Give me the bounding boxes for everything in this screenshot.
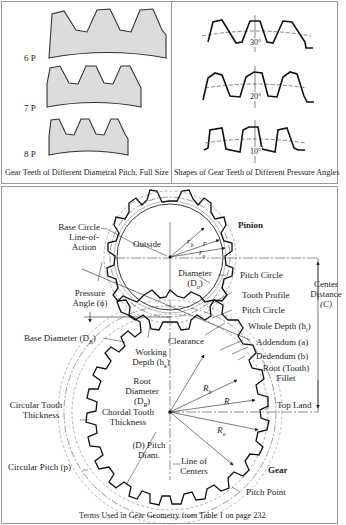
pitch-point-label: Pitch Point [246, 487, 286, 497]
whole-depth-label: Whole Depth (ht) [248, 321, 311, 335]
pressure-angle-20-label: 20° [249, 92, 262, 101]
pitch-label-7p: 7 P [24, 103, 36, 113]
pressure-angle-label: Pressure Angle (ϕ) [68, 288, 112, 308]
pinion-title: Pinion [238, 220, 263, 230]
pitch-label-8p: 8 P [24, 149, 36, 159]
dedendum-label: Dedendum (b) [256, 351, 308, 361]
chordal-tooth-thickness-label: Chordal Tooth Thickness [100, 407, 156, 427]
radius-rb-label: rb [187, 236, 194, 250]
gear-geometry-caption: Terms Used in Gear Geometry from Table 1… [79, 511, 266, 520]
circular-pitch-label: Circular Pitch (p) [8, 462, 71, 472]
pitch-circle-label-2: Pitch Circle [242, 305, 285, 315]
circular-tooth-thickness-label: Circular Tooth Thickness [8, 400, 64, 420]
gear-title: Gear [268, 465, 288, 475]
pitch-7p-rack [47, 66, 141, 107]
pitch-label-6p: 6 P [24, 53, 36, 63]
line-of-centers-label: Line of Centers [174, 456, 214, 476]
tooth-profile-label: Tooth Profile [242, 290, 290, 300]
outside-label: Outside [133, 239, 161, 249]
outside-diameter-label: Diameter (Do) [172, 268, 218, 292]
addendum-label: Addendum (a) [256, 337, 308, 347]
working-depth-label: Working Depth (hk) [126, 347, 176, 371]
diametral-pitch-caption: Gear Teeth of Different Diametral Pitch,… [5, 168, 169, 177]
radius-Rb-label: Rb [203, 383, 212, 397]
pitch-diameter-label: (D) Pitch Diam. [126, 440, 172, 460]
radius-R-label: R [224, 396, 230, 406]
pressure-angle-caption: Shapes of Gear Teeth of Different Pressu… [174, 168, 339, 177]
clearance-label: Clearance [168, 336, 204, 346]
root-fillet-label: Root (Tooth) Fillet [256, 363, 316, 383]
pressure-angle-10-label: 10° [249, 147, 262, 156]
base-circle-label: Base Circle Line-of- Action [50, 222, 100, 252]
pressure-angle-30-label: 30° [249, 38, 262, 47]
pitch-circle-label-1: Pitch Circle [240, 270, 283, 280]
pitch-6p-rack [49, 9, 166, 58]
root-diameter-label: Root Diameter (DR) [120, 376, 164, 410]
radius-ro-label: ro [199, 247, 206, 261]
pressure-10-pitch-line [205, 120, 305, 163]
pitch-8p-rack [49, 119, 128, 155]
radius-Ro-label: Ro [217, 425, 226, 439]
center-distance-label: Center Distance (C) [306, 279, 346, 309]
gear-radii [170, 355, 258, 465]
top-land-label: Top Land [277, 400, 312, 410]
base-diameter-label: Base Diameter (DB) [24, 333, 96, 347]
